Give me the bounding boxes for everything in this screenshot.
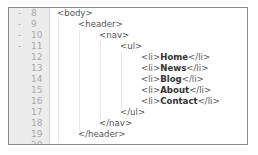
line-number-value: 13 <box>31 63 42 74</box>
code-text: <li>Blog</li> <box>141 74 204 85</box>
fold-toggle-icon[interactable]: - <box>18 41 21 52</box>
code-text: <li>Home</li> <box>141 52 210 63</box>
tag-content: Contact <box>160 96 197 106</box>
code-line[interactable]: 15<li>About</li> <box>9 85 247 96</box>
tag-close: </li> <box>189 85 211 95</box>
code-line[interactable]: 20 <box>9 140 247 145</box>
line-number-value: 20 <box>31 140 42 145</box>
tag-close: </li> <box>182 74 204 84</box>
fold-toggle-icon[interactable]: - <box>18 19 21 30</box>
code-text: </header> <box>78 129 126 140</box>
tag-open: </ul> <box>120 107 145 117</box>
fold-toggle-icon[interactable]: - <box>18 30 21 41</box>
tag-close: </li> <box>188 52 210 62</box>
code-line[interactable]: 14<li>Blog</li> <box>9 74 247 85</box>
tag-open: </nav> <box>99 118 132 128</box>
tag-open: <li> <box>141 74 160 84</box>
fold-toggle-icon[interactable]: - <box>18 8 21 19</box>
line-number-value: 19 <box>31 129 42 140</box>
code-text: </nav> <box>99 118 132 129</box>
tag-content: News <box>160 63 186 73</box>
line-number-value: 18 <box>31 118 42 129</box>
tag-open: </header> <box>78 129 126 139</box>
code-line[interactable]: -11<ul> <box>9 41 247 52</box>
code-text: </ul> <box>120 107 145 118</box>
code-line[interactable]: 17</ul> <box>9 107 247 118</box>
code-text: <li>About</li> <box>141 85 211 96</box>
line-number-value: 11 <box>31 41 42 52</box>
tag-open: <li> <box>141 96 160 106</box>
code-editor[interactable]: -8<body>-9<header>-10<nav>-11<ul>12<li>H… <box>8 7 248 145</box>
line-number-value: 9 <box>31 19 37 30</box>
code-text: <body> <box>57 8 93 19</box>
line-number-value: 14 <box>31 74 42 85</box>
line-number-value: 12 <box>31 52 42 63</box>
code-line[interactable]: -8<body> <box>9 8 247 19</box>
tag-content: Home <box>160 52 188 62</box>
code-line[interactable]: 12<li>Home</li> <box>9 52 247 63</box>
line-number-value: 16 <box>31 96 42 107</box>
tag-close: </li> <box>186 63 208 73</box>
tag-open: <nav> <box>99 30 129 40</box>
tag-open: <li> <box>141 63 160 73</box>
code-line[interactable]: 13<li>News</li> <box>9 63 247 74</box>
tag-open: <ul> <box>120 41 142 51</box>
code-line[interactable]: 19</header> <box>9 129 247 140</box>
code-line[interactable]: -9<header> <box>9 19 247 30</box>
line-number-value: 10 <box>31 30 42 41</box>
code-text: <nav> <box>99 30 129 41</box>
tag-close: </li> <box>198 96 220 106</box>
code-text: <ul> <box>120 41 142 52</box>
code-text: <header> <box>78 19 123 30</box>
code-text: <li>News</li> <box>141 63 208 74</box>
line-number-value: 15 <box>31 85 42 96</box>
tag-content: About <box>160 85 189 95</box>
tag-open: <header> <box>78 19 123 29</box>
code-line[interactable]: 16<li>Contact</li> <box>9 96 247 107</box>
tag-content: Blog <box>160 74 182 84</box>
code-text: <li>Contact</li> <box>141 96 220 107</box>
code-line[interactable]: 18</nav> <box>9 118 247 129</box>
code-line[interactable]: -10<nav> <box>9 30 247 41</box>
line-number-value: 17 <box>31 107 42 118</box>
line-number-value: 8 <box>31 8 37 19</box>
tag-open: <body> <box>57 8 93 18</box>
tag-open: <li> <box>141 85 160 95</box>
tag-open: <li> <box>141 52 160 62</box>
